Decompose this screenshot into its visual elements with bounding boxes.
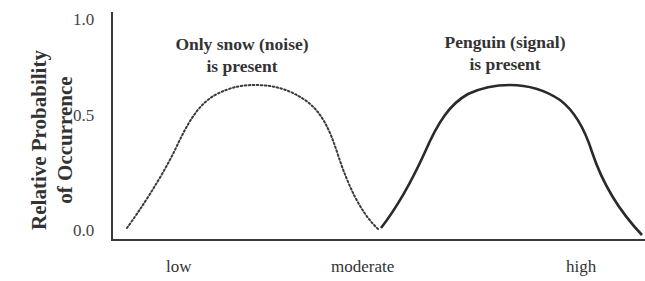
y-axis-label-line1: Relative Probability [26,50,52,230]
y-tick-0-5: 0.5 [73,106,94,126]
signal-annotation: Penguin (signal) is present [425,31,585,75]
signal-annotation-line2: is present [425,53,585,75]
y-axis-label: Relative Probability of Occurrence [26,50,78,230]
noise-annotation-line2: is present [162,55,322,77]
y-tick-0: 0.0 [73,221,94,241]
signal-curve [381,85,642,235]
noise-annotation-line1: Only snow (noise) [162,33,322,55]
y-axis-label-line2: of Occurrence [52,50,78,230]
signal-annotation-line1: Penguin (signal) [425,31,585,53]
x-tick-low: low [166,257,192,277]
x-tick-moderate: moderate [331,257,394,277]
noise-curve [127,85,378,229]
noise-annotation: Only snow (noise) is present [162,33,322,77]
x-tick-high: high [566,257,596,277]
y-tick-1: 1.0 [73,10,94,30]
